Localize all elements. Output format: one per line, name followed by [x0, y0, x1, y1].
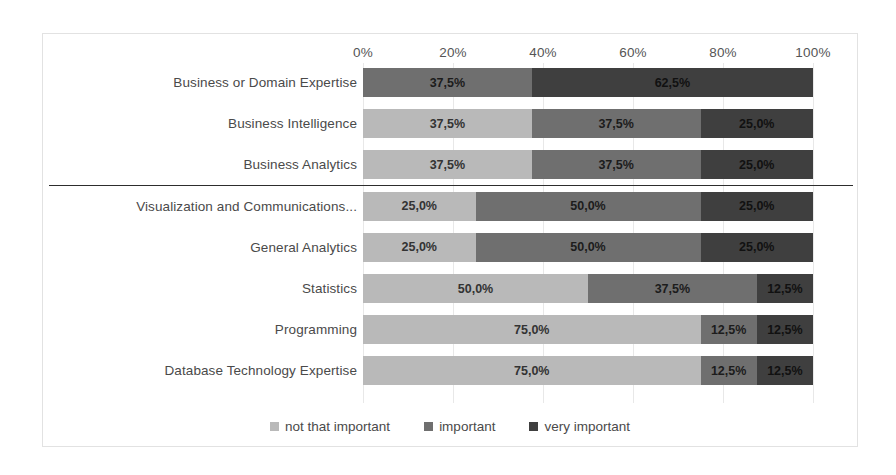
bar-segment: 25,0%	[701, 233, 814, 262]
bar-segment: 37,5%	[532, 150, 701, 179]
x-axis-tick-80pct: 80%	[693, 45, 753, 60]
bar-segment: 75,0%	[363, 356, 701, 385]
legend-swatch-icon	[270, 422, 279, 431]
bar-segment: 37,5%	[363, 68, 532, 97]
category-label: Programming	[51, 322, 357, 337]
chart-legend: not that importantimportantvery importan…	[43, 419, 857, 434]
bar-segment: 25,0%	[363, 192, 476, 221]
bar-segment: 50,0%	[476, 192, 701, 221]
x-axis-tick-60pct: 60%	[603, 45, 663, 60]
category-label: Visualization and Communications...	[51, 199, 357, 214]
legend-swatch-icon	[529, 422, 538, 431]
legend-label: very important	[544, 419, 630, 434]
legend-label: not that important	[285, 419, 390, 434]
bar-segment: 37,5%	[532, 109, 701, 138]
bar-row: 37,5%37,5%25,0%	[363, 150, 813, 179]
bar-row: 37,5%62,5%	[363, 68, 813, 97]
bar-segment: 12,5%	[701, 356, 757, 385]
chart-container: 0%20%40%60%80%100% Business or Domain Ex…	[42, 33, 858, 447]
plot-area: 37,5%62,5%37,5%37,5%25,0%37,5%37,5%25,0%…	[363, 63, 813, 403]
category-label: Business Intelligence	[51, 116, 357, 131]
bar-segment: 50,0%	[363, 274, 588, 303]
category-label: Database Technology Expertise	[51, 363, 357, 378]
x-axis-tick-100pct: 100%	[783, 45, 843, 60]
bar-segment: 25,0%	[701, 192, 814, 221]
bar-segment: 37,5%	[363, 109, 532, 138]
bar-segment: 12,5%	[757, 274, 813, 303]
bar-segment: 25,0%	[701, 109, 814, 138]
bar-row: 75,0%12,5%12,5%	[363, 356, 813, 385]
legend-swatch-icon	[424, 422, 433, 431]
bar-segment: 37,5%	[588, 274, 757, 303]
bar-row: 50,0%37,5%12,5%	[363, 274, 813, 303]
x-axis-tick-labels: 0%20%40%60%80%100%	[363, 45, 813, 63]
x-axis-tick-20pct: 20%	[423, 45, 483, 60]
category-label: Statistics	[51, 281, 357, 296]
bar-segment: 12,5%	[757, 356, 813, 385]
x-axis-tick-40pct: 40%	[513, 45, 573, 60]
bar-segment: 12,5%	[701, 315, 757, 344]
legend-label: important	[439, 419, 495, 434]
bar-segment: 12,5%	[757, 315, 813, 344]
y-axis-category-labels: Business or Domain ExpertiseBusiness Int…	[51, 63, 357, 403]
legend-item[interactable]: important	[424, 419, 495, 434]
bar-segment: 25,0%	[701, 150, 814, 179]
category-label: Business or Domain Expertise	[51, 75, 357, 90]
category-label: General Analytics	[51, 240, 357, 255]
x-axis-tick-0pct: 0%	[333, 45, 393, 60]
bar-segment: 37,5%	[363, 150, 532, 179]
bar-segment: 25,0%	[363, 233, 476, 262]
category-label: Business Analytics	[51, 157, 357, 172]
gridline	[813, 63, 814, 403]
group-divider-rule	[49, 185, 853, 186]
bar-row: 25,0%50,0%25,0%	[363, 233, 813, 262]
bar-row: 25,0%50,0%25,0%	[363, 192, 813, 221]
bar-row: 37,5%37,5%25,0%	[363, 109, 813, 138]
legend-item[interactable]: very important	[529, 419, 630, 434]
bar-segment: 75,0%	[363, 315, 701, 344]
bar-segment: 50,0%	[476, 233, 701, 262]
bar-row: 75,0%12,5%12,5%	[363, 315, 813, 344]
bar-segment: 62,5%	[532, 68, 813, 97]
legend-item[interactable]: not that important	[270, 419, 390, 434]
